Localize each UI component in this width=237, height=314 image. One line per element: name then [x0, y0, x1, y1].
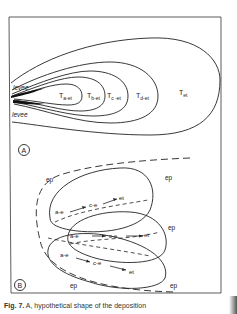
- ep-label-1: ep: [46, 176, 54, 184]
- svg-text:B: B: [18, 282, 23, 289]
- ep-label-5: ep: [170, 282, 178, 290]
- lobe-2-ce: c-e: [109, 233, 118, 239]
- svg-text:A: A: [22, 147, 27, 154]
- lobe-sequence-3: a-e c-e et: [60, 252, 134, 275]
- lobe-sequence-2: a-e c-e et: [70, 232, 149, 239]
- figure-caption: Fig. 7. A, hypothetical shape of the dep…: [4, 302, 146, 309]
- ep-label-2: ep: [165, 174, 173, 182]
- caption-fig-number: Fig. 7.: [4, 302, 24, 309]
- zone-label-tet: Tet: [179, 89, 188, 98]
- zone-label-ta: Ta-et: [59, 92, 73, 101]
- levee-label-lower: levee: [12, 111, 28, 118]
- ep-label-4: ep: [70, 282, 78, 290]
- lobe-3-ae: a-e: [60, 252, 69, 258]
- ep-label-3: ep: [168, 224, 176, 232]
- lobe-3-end: et: [129, 269, 134, 275]
- lobe-2-end: et: [144, 232, 149, 238]
- panel-b-label: B: [15, 280, 26, 291]
- caption-text: A, hypothetical shape of the deposition: [26, 302, 146, 309]
- zone-label-td: Td-et: [136, 92, 150, 101]
- lobe-2-ae: a-e: [70, 233, 79, 239]
- page-edge-shadow: [229, 296, 237, 314]
- levee-label-upper: levee: [13, 84, 29, 91]
- lobe-1-end: et: [119, 195, 124, 201]
- lobe-3-ce: c-e: [93, 260, 102, 266]
- panel-b-lobes: [48, 168, 166, 289]
- zone-label-tb: Tb-et: [87, 92, 101, 101]
- zone-label-tc: Tc -et: [107, 92, 122, 101]
- panel-a-label: A: [19, 145, 30, 156]
- panel-b-inner-dashed: [48, 200, 160, 256]
- panel-a-contours: [11, 38, 220, 135]
- figure-frame: [9, 17, 221, 293]
- lobe-1-ce: c-e: [89, 202, 98, 208]
- lobe-1-ae: a-e: [55, 209, 64, 215]
- figure: levee levee Ta-et Tb-et Tc -et Td-et Tet…: [0, 0, 237, 314]
